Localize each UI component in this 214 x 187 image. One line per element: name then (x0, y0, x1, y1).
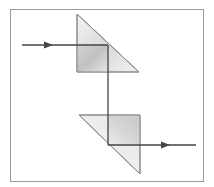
periscope-diagram (0, 0, 214, 187)
diagram-frame (11, 10, 204, 182)
